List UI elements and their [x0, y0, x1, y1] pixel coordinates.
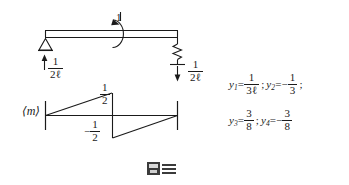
moment-peak-negative-label: − 1 2: [84, 119, 100, 143]
eq2-val2-denominator: 8: [282, 121, 292, 133]
peak-negative-numerator: 1: [90, 119, 100, 132]
triple-bar-icon: [162, 162, 176, 175]
eq1-separator2: ;: [297, 78, 304, 90]
right-reaction-label: 1 2ℓ: [188, 59, 203, 83]
eq1-val1-numerator: 1: [244, 72, 259, 85]
eq2-separator1: ;: [254, 114, 261, 126]
peak-positive-denominator: 2: [100, 95, 110, 107]
applied-moment-label: 1: [116, 12, 122, 23]
equation-line-2: y3= 3 8 ;y4=− 3 8: [229, 108, 292, 132]
left-reaction-arrow: [42, 55, 48, 71]
eq2-val1-numerator: 3: [244, 108, 254, 121]
left-reaction-denominator: 2ℓ: [48, 69, 63, 81]
eq1-val2-denominator: 3: [288, 85, 298, 97]
eq2-val1-denominator: 8: [244, 121, 254, 133]
pin-support-triangle: [38, 39, 53, 51]
moment-diagram-axis-label: ⟨m⟩: [22, 105, 40, 117]
peak-positive-numerator: 1: [100, 82, 110, 95]
cjk-glyph-icon: [147, 162, 160, 175]
eq1-val1-denominator: 3ℓ: [244, 85, 259, 97]
right-reaction-arrow: [175, 66, 181, 82]
left-reaction-numerator: 1: [48, 56, 63, 69]
eq1-val2-numerator: 1: [288, 72, 298, 85]
caption-glyph-mark: [147, 162, 176, 175]
moment-diagram: [45, 93, 178, 138]
left-reaction-label: 1 2ℓ: [48, 56, 63, 80]
moment-peak-positive-label: 1 2: [100, 82, 110, 106]
figure-container: 1 1 2ℓ 1 2ℓ ⟨m⟩ 1 2 − 1 2 y1= 1 3ℓ ;y2=−: [0, 0, 349, 185]
eq2-val2-numerator: 3: [282, 108, 292, 121]
right-reaction-denominator: 2ℓ: [188, 72, 203, 84]
beam-member: [45, 31, 178, 38]
spring-link: [170, 38, 185, 65]
equation-line-1: y1= 1 3ℓ ;y2=− 1 3 ;: [229, 72, 305, 96]
right-reaction-numerator: 1: [188, 59, 203, 72]
peak-negative-denominator: 2: [90, 132, 100, 144]
